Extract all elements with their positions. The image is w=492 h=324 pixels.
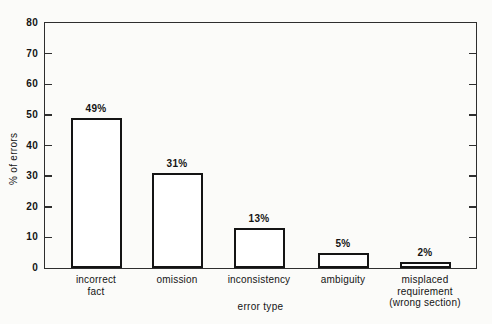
y-tick-label: 80 <box>0 17 38 29</box>
y-tick-label: 50 <box>0 109 38 121</box>
y-tick-label: 20 <box>0 201 38 213</box>
y-tick-mark-right <box>469 84 476 86</box>
bar <box>318 253 369 268</box>
bar-chart-figure: % of errors error type 01020304050607080… <box>0 0 492 324</box>
bar <box>71 118 122 268</box>
category-label: inconsistency <box>213 274 305 286</box>
bar <box>400 262 451 268</box>
bar-value-label: 5% <box>313 238 373 250</box>
y-tick-mark-left <box>45 237 52 239</box>
bar-value-label: 49% <box>66 103 126 115</box>
y-tick-mark-left <box>45 114 52 116</box>
bar-value-label: 31% <box>147 158 207 170</box>
y-tick-mark-right <box>469 53 476 55</box>
category-label: omission <box>131 274 223 286</box>
bar <box>152 173 203 268</box>
y-tick-mark-right <box>469 237 476 239</box>
y-tick-label: 70 <box>0 48 38 60</box>
bar <box>234 228 285 268</box>
y-tick-mark-left <box>45 206 52 208</box>
y-tick-mark-left <box>45 175 52 177</box>
category-label: ambiguity <box>297 274 389 286</box>
y-tick-mark-right <box>469 145 476 147</box>
y-tick-label: 30 <box>0 170 38 182</box>
y-tick-mark-left <box>45 53 52 55</box>
bar-value-label: 13% <box>229 213 289 225</box>
y-tick-mark-left <box>45 84 52 86</box>
y-tick-label: 60 <box>0 78 38 90</box>
bar-value-label: 2% <box>395 247 455 259</box>
y-axis-title: % of errors <box>7 112 20 206</box>
y-tick-mark-right <box>469 114 476 116</box>
y-tick-label: 10 <box>0 231 38 243</box>
y-tick-label: 40 <box>0 140 38 152</box>
y-tick-label: 0 <box>0 262 38 274</box>
y-tick-mark-right <box>469 175 476 177</box>
category-label: incorrect fact <box>50 274 142 297</box>
category-label: misplaced requirement (wrong section) <box>379 274 471 309</box>
y-tick-mark-left <box>45 145 52 147</box>
y-tick-mark-right <box>469 206 476 208</box>
